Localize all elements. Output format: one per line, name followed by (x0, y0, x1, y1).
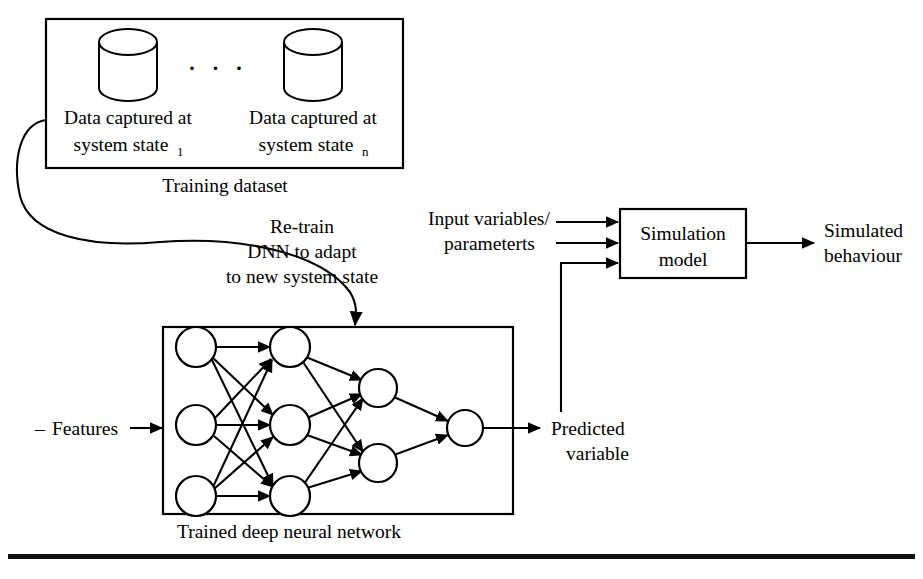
features-dash: – (34, 418, 45, 439)
neuron-hidden2-1 (359, 369, 397, 407)
dataset-2-label-line2: system state (259, 134, 354, 155)
simulation-model-label-line1: Simulation (640, 223, 726, 244)
simulation-output-label-line1: Simulated (824, 220, 903, 241)
neuron-input-3 (176, 476, 216, 516)
predicted-variable-to-simulation-arrow (561, 263, 618, 412)
dataset-2-subscript: n (362, 144, 369, 159)
neural-network-caption: Trained deep neural network (177, 521, 401, 542)
training-dataset-group: · · · Data captured at system state 1 Da… (46, 19, 403, 196)
dataset-1-label-line2: system state (74, 134, 169, 155)
predicted-variable-label-line1: Predicted (551, 418, 625, 439)
simulation-input-label-line1: Input variables/ (428, 208, 550, 229)
neuron-hidden1-3 (270, 476, 310, 516)
layer-input-nodes (176, 327, 216, 516)
retrain-annotation-line2: DNN to adapt (247, 241, 357, 262)
simulation-model-label-line2: model (659, 249, 708, 270)
predicted-variable-label-line2: variable (566, 443, 629, 464)
dataset-2-label-line1: Data captured at (249, 107, 377, 128)
ellipsis-between-datasets: · · · (187, 51, 247, 84)
database-cylinder-icon-1 (99, 29, 157, 101)
retrain-annotation-line3: to new system state (226, 266, 378, 287)
database-cylinder-icon-2 (284, 29, 342, 101)
neuron-hidden1-2 (270, 405, 310, 445)
training-dataset-caption: Training dataset (162, 175, 288, 196)
figure-canvas: · · · Data captured at system state 1 Da… (0, 0, 923, 579)
retrain-annotation-line1: Re-train (270, 216, 334, 237)
neuron-input-2 (176, 405, 216, 445)
neural-network-group: – Features (34, 327, 629, 542)
dataset-1-subscript: 1 (177, 144, 184, 159)
simulation-output-label-line2: behaviour (824, 245, 902, 266)
neuron-hidden2-2 (359, 444, 397, 482)
layer-hidden1-nodes (270, 327, 310, 516)
simulation-input-label-line2: parameterts (444, 233, 535, 254)
neuron-hidden1-1 (270, 327, 310, 367)
dataset-1-label-line1: Data captured at (64, 107, 192, 128)
retrain-annotation: Re-train DNN to adapt to new system stat… (226, 216, 378, 287)
features-label: Features (52, 418, 118, 439)
neuron-output-1 (447, 410, 483, 446)
neuron-input-1 (176, 327, 216, 367)
bottom-divider-rule (8, 554, 915, 559)
workflow-diagram: · · · Data captured at system state 1 Da… (0, 0, 923, 579)
simulation-model-group: Input variables/ parameterts Simulation … (428, 208, 903, 278)
